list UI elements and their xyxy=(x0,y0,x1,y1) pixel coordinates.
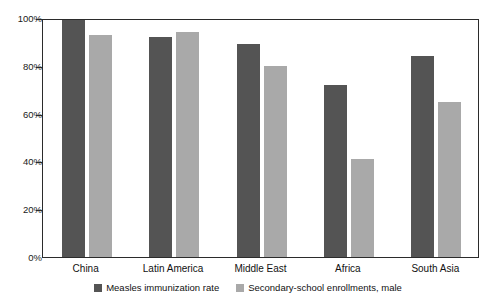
legend-label: Secondary-school enrollments, male xyxy=(248,283,402,293)
bar xyxy=(264,66,287,257)
x-axis-category-label: Middle East xyxy=(234,263,286,274)
x-axis-category-label: Africa xyxy=(335,263,361,274)
legend-swatch-icon xyxy=(94,284,102,292)
x-axis-category-label: South Asia xyxy=(411,263,459,274)
bar xyxy=(89,35,112,257)
x-axis-category-label: Latin America xyxy=(143,263,204,274)
bar xyxy=(237,44,260,257)
bar xyxy=(438,102,461,257)
legend-label: Measles immunization rate xyxy=(106,283,219,293)
legend-item[interactable]: Measles immunization rate xyxy=(94,283,219,293)
bar xyxy=(351,159,374,257)
bars-layer xyxy=(43,20,478,257)
bar xyxy=(62,20,85,257)
bar xyxy=(411,56,434,257)
legend-swatch-icon xyxy=(236,284,244,292)
clipped-header-text xyxy=(6,0,306,4)
legend-item[interactable]: Secondary-school enrollments, male xyxy=(236,283,402,293)
chart-plot-area xyxy=(42,19,479,258)
bar xyxy=(176,32,199,257)
chart-legend: Measles immunization rateSecondary-schoo… xyxy=(0,283,496,293)
y-axis: 0%20%40%60%80%100% xyxy=(0,0,42,301)
bar xyxy=(324,85,347,257)
bar xyxy=(149,37,172,257)
y-axis-tick-label: 0% xyxy=(8,253,42,263)
x-axis-category-label: China xyxy=(73,263,99,274)
